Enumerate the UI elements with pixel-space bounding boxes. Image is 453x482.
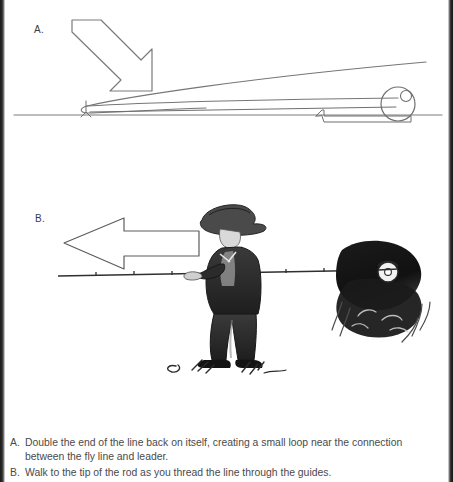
- arrow-left: [64, 218, 199, 269]
- caption-text-a: Double the end of the line back on itsel…: [25, 436, 441, 465]
- fly-reel-b: [378, 262, 398, 283]
- bush-mass: [332, 241, 430, 342]
- angler-head: [219, 229, 240, 248]
- rod-tip-segment: [378, 269, 398, 270]
- caption-item-b: B. Walk to the tip of the rod as you thr…: [10, 466, 441, 480]
- arrow-down-right: [72, 20, 152, 91]
- angler-figure: [184, 205, 266, 368]
- rod-blank: [90, 107, 396, 112]
- caption-marker-b: B.: [10, 466, 25, 480]
- fly-line-lower-curve: [87, 98, 398, 106]
- page-gutter-left: [0, 0, 5, 482]
- caption-item-a: A. Double the end of the line back on it…: [10, 436, 441, 465]
- fly-rod-line-loop-diagram: [6, 12, 448, 132]
- angler-hand: [184, 272, 202, 280]
- rod-grip: [316, 110, 411, 122]
- caption-text-b: Walk to the tip of the rod as you thread…: [25, 466, 441, 480]
- caption-block: A. Double the end of the line back on it…: [0, 436, 453, 481]
- document-page: A.: [0, 0, 453, 482]
- angler-walking-rod-tip-sketch: [6, 190, 448, 380]
- angler-legs: [210, 314, 256, 360]
- caption-marker-a: A.: [10, 436, 25, 450]
- reel-handle-knob: [401, 91, 412, 102]
- page-gutter-right: [448, 0, 453, 482]
